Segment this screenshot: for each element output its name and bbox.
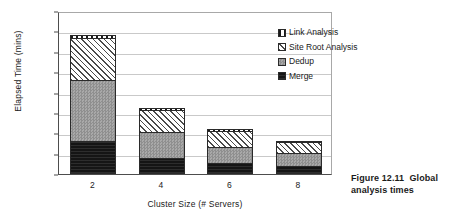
bar-segment-merge	[207, 163, 253, 174]
bar-group	[70, 35, 116, 174]
bar-group	[207, 129, 253, 174]
legend-item-site-root-analysis: Site Root Analysis	[278, 43, 358, 52]
chart-legend: Link Analysis Site Root Analysis Dedup M…	[278, 28, 358, 81]
plot-area: Link Analysis Site Root Analysis Dedup M…	[58, 12, 332, 175]
bar-segment-site-root-analysis	[276, 142, 322, 153]
y-axis-title: Elapsed Time (mins)	[13, 6, 23, 136]
bar-segment-merge	[139, 158, 185, 174]
legend-label-site-root-analysis: Site Root Analysis	[289, 43, 358, 52]
legend-item-link-analysis: Link Analysis	[278, 28, 358, 37]
bar-segment-merge	[276, 166, 322, 174]
bar-group	[139, 108, 185, 174]
legend-label-merge: Merge	[289, 72, 313, 81]
bar-segment-site-root-analysis	[207, 131, 253, 146]
chart-stacked-bar: Elapsed Time (mins) 05010015020025030035…	[0, 0, 340, 224]
figure-caption-number: Figure 12.11	[351, 173, 404, 183]
legend-swatch-merge-icon	[278, 72, 286, 80]
legend-label-dedup: Dedup	[289, 57, 314, 66]
x-tick-label: 6	[206, 180, 252, 190]
bar-segment-dedup	[139, 132, 185, 158]
x-axis-title: Cluster Size (# Servers)	[58, 199, 332, 209]
figure-caption: Figure 12.11 Global analysis times	[351, 172, 471, 196]
figure-global-analysis-times: Elapsed Time (mins) 05010015020025030035…	[0, 0, 476, 224]
x-tick-label: 8	[275, 180, 321, 190]
legend-label-link-analysis: Link Analysis	[289, 28, 338, 37]
bar-group	[276, 141, 322, 174]
bar-segment-merge	[70, 141, 116, 174]
x-tick-label: 2	[69, 180, 115, 190]
x-tick-label: 4	[138, 180, 184, 190]
bar-segment-site-root-analysis	[70, 38, 116, 80]
bar-segment-dedup	[207, 147, 253, 163]
legend-item-dedup: Dedup	[278, 57, 358, 66]
bar-segment-site-root-analysis	[139, 110, 185, 132]
bar-segment-dedup	[70, 80, 116, 142]
bar-segment-dedup	[276, 153, 322, 166]
legend-swatch-site-root-analysis-icon	[278, 43, 286, 51]
legend-swatch-dedup-icon	[278, 58, 286, 66]
legend-item-merge: Merge	[278, 72, 358, 81]
legend-swatch-link-analysis-icon	[278, 29, 286, 37]
